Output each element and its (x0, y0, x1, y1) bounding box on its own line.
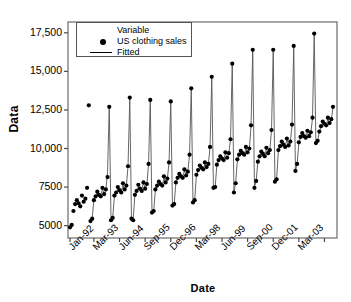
data-point-marker (136, 183, 140, 187)
data-point-marker (319, 124, 323, 128)
data-point-marker (324, 123, 328, 127)
data-point-marker (105, 175, 109, 179)
data-point-marker (292, 44, 296, 48)
data-point-marker (162, 174, 166, 178)
data-point-marker (143, 187, 147, 191)
data-point-marker (172, 202, 176, 206)
data-point-marker (167, 160, 171, 164)
legend-marker-line-icon (90, 52, 112, 53)
fitted-line-series (90, 34, 333, 221)
data-point-marker (99, 194, 103, 198)
data-point-marker (193, 198, 197, 202)
data-point-marker (153, 187, 157, 191)
data-point-marker (288, 139, 292, 143)
y-tick-label: 12,500 (10, 104, 62, 115)
data-point-marker (145, 182, 149, 186)
data-point-marker (210, 75, 214, 79)
data-point-marker (85, 186, 89, 190)
data-point-marker (196, 168, 200, 172)
legend-title: Variable (117, 25, 149, 35)
data-point-marker (80, 193, 84, 197)
data-point-marker (254, 179, 258, 183)
data-point-marker (215, 163, 219, 167)
data-point-marker (256, 160, 260, 164)
data-point-marker (312, 31, 316, 35)
data-point-marker (331, 105, 335, 109)
data-point-marker (271, 48, 275, 52)
data-point-marker (228, 137, 232, 141)
data-point-marker (189, 86, 193, 90)
data-point-marker (249, 123, 253, 127)
chart-legend: Variable US clothing sales Fitted (76, 22, 192, 57)
data-point-marker (290, 123, 294, 127)
data-point-marker (242, 153, 246, 157)
data-point-marker (131, 218, 135, 222)
data-point-marker (146, 162, 150, 166)
data-point-marker (227, 151, 231, 155)
data-point-marker (124, 183, 128, 187)
data-point-marker (184, 173, 188, 177)
data-point-marker (126, 164, 130, 168)
data-point-marker (133, 193, 137, 197)
data-point-marker (181, 176, 185, 180)
data-point-marker (268, 148, 272, 152)
data-point-marker (135, 189, 139, 193)
data-point-marker (309, 130, 313, 134)
data-point-marker (208, 145, 212, 149)
data-point-marker (92, 198, 96, 202)
x-axis-title: Date (68, 282, 338, 294)
y-tick-label: 7500 (10, 181, 62, 192)
data-point-marker (70, 223, 74, 227)
data-point-marker (310, 116, 314, 120)
data-point-marker (107, 105, 111, 109)
data-point-marker (317, 129, 321, 133)
data-point-marker (329, 117, 333, 121)
data-point-marker (71, 209, 75, 213)
data-point-marker (169, 99, 173, 103)
data-point-marker (104, 187, 108, 191)
legend-entry-label-sales: US clothing sales (117, 36, 187, 46)
data-point-marker (83, 197, 87, 201)
data-point-marker (182, 167, 186, 171)
data-point-marker (187, 153, 191, 157)
data-point-marker (263, 154, 267, 158)
data-point-marker (128, 96, 132, 100)
data-point-marker (295, 162, 299, 166)
chart-figure: Data Date 5000750010,00012,50015,00017,5… (0, 0, 351, 302)
data-point-marker (102, 192, 106, 196)
data-point-marker (186, 170, 190, 174)
data-point-marker (165, 177, 169, 181)
data-point-marker (234, 181, 238, 185)
data-point-marker (114, 190, 118, 194)
data-point-marker (206, 162, 210, 166)
data-point-marker (246, 150, 250, 154)
data-point-marker (316, 139, 320, 143)
data-point-marker (232, 190, 236, 194)
y-tick-label: 5000 (10, 220, 62, 231)
data-point-marker (225, 156, 229, 160)
data-point-marker (148, 98, 152, 102)
data-point-marker (90, 217, 94, 221)
data-point-marker (174, 180, 178, 184)
data-point-marker (307, 134, 311, 138)
y-tick-label: 10,000 (10, 143, 62, 154)
data-point-marker (269, 128, 273, 132)
data-point-marker (123, 187, 127, 191)
legend-entry-label-fitted: Fitted (117, 47, 140, 57)
data-point-marker (275, 177, 279, 181)
data-point-marker (111, 216, 115, 220)
y-tick-label: 15,000 (10, 65, 62, 76)
data-point-marker (87, 103, 91, 107)
data-point-marker (252, 186, 256, 190)
data-point-marker (78, 204, 82, 208)
y-axis-title: Data (7, 89, 21, 149)
data-point-marker (119, 190, 123, 194)
data-point-marker (140, 189, 144, 193)
data-point-marker (160, 183, 164, 187)
data-point-marker (230, 62, 234, 66)
y-tick-label: 17,500 (10, 27, 62, 38)
data-point-marker (251, 48, 255, 52)
data-point-marker (121, 181, 125, 185)
data-point-marker (222, 158, 226, 162)
data-point-marker (327, 121, 331, 125)
